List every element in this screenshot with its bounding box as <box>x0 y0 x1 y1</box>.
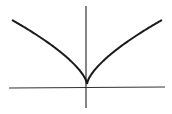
x-axis <box>9 87 165 88</box>
cusp-plot <box>0 0 172 114</box>
curve-right-branch <box>87 20 162 84</box>
curve-left-branch <box>12 20 87 84</box>
